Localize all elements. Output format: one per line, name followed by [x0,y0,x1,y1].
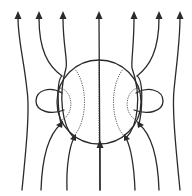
arrow-up-right-icon [56,121,63,128]
left-loop [36,90,64,113]
field-lines [18,18,180,190]
arrow-up-icon [36,11,43,19]
field-lines-diagram [0,0,192,196]
arrow-up-icon [15,11,22,19]
arrow-up-icon [60,11,67,19]
field-line-3 [62,18,74,190]
arrow-up-icon [156,11,163,19]
field-line-5 [126,18,138,190]
field-line-1 [18,18,28,190]
top-arrows [15,11,184,19]
arrow-up-icon [177,11,184,19]
arrow-up-icon [131,11,138,19]
field-line-7 [173,18,180,190]
arrow-up-icon [96,11,103,19]
interior-line-left-inner [74,68,85,136]
arrow-up-left-icon [137,121,144,128]
interior-line-right-inner [114,68,125,136]
field-line-2 [39,18,62,190]
field-line-6 [137,18,159,190]
right-loop [134,90,163,113]
